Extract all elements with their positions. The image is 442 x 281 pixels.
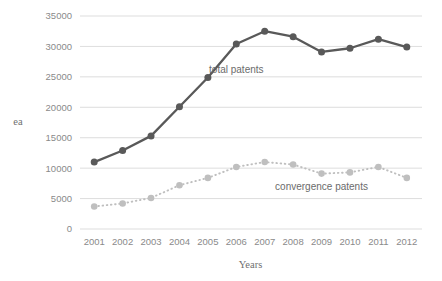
data-point: [148, 195, 155, 202]
data-point: [403, 175, 410, 182]
x-axis-tick-label: 2006: [226, 236, 247, 247]
data-point: [375, 164, 382, 171]
data-point: [176, 182, 183, 189]
y-axis-tick-label: 10000: [46, 163, 72, 174]
data-point: [148, 132, 155, 139]
chart-container: 35000300002500020000150001000050000 2001…: [0, 0, 442, 281]
y-axis-tick-label: 5000: [51, 193, 72, 204]
x-axis-tick-label: 2011: [368, 236, 388, 247]
x-axis-tick-label: 2009: [311, 236, 332, 247]
data-point: [318, 48, 325, 55]
data-point: [233, 164, 240, 171]
data-point: [176, 103, 183, 110]
x-axis-tick-label: 2004: [169, 236, 190, 247]
y-axis-tick-label: 35000: [46, 10, 72, 21]
data-point: [375, 36, 382, 43]
y-axis-tick-label: 30000: [46, 41, 72, 52]
series-annotations: total patentsconvergence patents: [209, 64, 368, 192]
y-axis-tick-label: 20000: [46, 102, 72, 113]
data-point: [261, 159, 268, 166]
x-axis-tick-label: 2005: [197, 236, 218, 247]
data-point: [205, 175, 212, 182]
data-point: [290, 33, 297, 40]
x-axis-tick-label: 2007: [254, 236, 275, 247]
series-line-total-patents: [94, 31, 407, 162]
data-point: [403, 44, 410, 51]
data-point: [347, 169, 354, 176]
data-point: [119, 147, 126, 154]
data-point: [261, 28, 268, 35]
gridlines-group: [80, 16, 422, 229]
data-point: [233, 40, 240, 47]
data-point: [91, 159, 98, 166]
x-axis-tick-label: 2001: [84, 236, 105, 247]
data-point: [346, 45, 353, 52]
data-point: [318, 170, 325, 177]
y-axis-title: ea: [13, 116, 23, 127]
line-chart: 35000300002500020000150001000050000 2001…: [0, 0, 442, 281]
x-axis-title: Years: [239, 259, 262, 270]
y-axis-tick-label: 0: [67, 223, 72, 234]
series-annotation-label: convergence patents: [275, 181, 368, 192]
y-axis-tick-label: 15000: [46, 132, 72, 143]
x-axis-tick-labels: 2001200220032004200520062007200820092010…: [84, 236, 418, 247]
x-axis-tick-label: 2010: [339, 236, 360, 247]
x-axis-tick-label: 2003: [140, 236, 161, 247]
x-axis-tick-label: 2012: [396, 236, 417, 247]
data-point: [290, 161, 297, 168]
y-axis-tick-labels: 35000300002500020000150001000050000: [46, 10, 72, 234]
x-axis-tick-label: 2002: [112, 236, 133, 247]
data-point: [119, 200, 126, 207]
series-annotation-label: total patents: [209, 64, 263, 75]
data-point: [91, 203, 98, 210]
x-axis-tick-label: 2008: [283, 236, 304, 247]
y-axis-tick-label: 25000: [46, 71, 72, 82]
